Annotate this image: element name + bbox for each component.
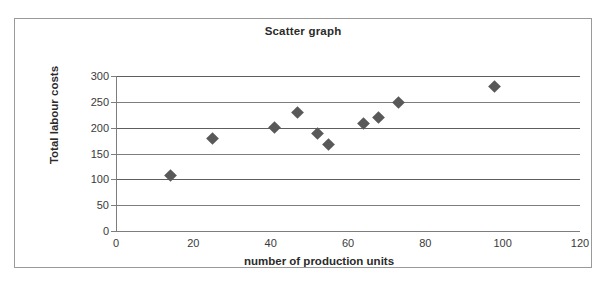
gridline-y-250	[116, 102, 580, 103]
gridline-y-0	[116, 231, 580, 232]
data-point	[322, 138, 335, 151]
y-tick-200	[111, 128, 117, 129]
x-tick-label-20: 20	[173, 237, 213, 249]
data-point	[291, 106, 304, 119]
x-tick-label-80: 80	[405, 237, 445, 249]
data-point	[268, 121, 281, 134]
x-tick-label-60: 60	[328, 237, 368, 249]
y-tick-150	[111, 154, 117, 155]
chart-figure-frame: Scatter graph Total labour costs number …	[14, 18, 592, 268]
x-tick-label-120: 120	[560, 237, 600, 249]
gridline-y-100	[116, 179, 580, 180]
y-tick-300	[111, 76, 117, 77]
y-tick-label-100: 100	[63, 173, 109, 185]
y-tick-label-0: 0	[63, 225, 109, 237]
y-tick-50	[111, 205, 117, 206]
gridline-y-150	[116, 154, 580, 155]
data-point	[392, 96, 405, 109]
x-tick-label-100: 100	[483, 237, 523, 249]
gridline-y-200	[116, 128, 580, 129]
data-point	[373, 111, 386, 124]
y-tick-100	[111, 179, 117, 180]
y-tick-label-200: 200	[63, 122, 109, 134]
x-tick-label-40: 40	[251, 237, 291, 249]
y-tick-label-300: 300	[63, 70, 109, 82]
y-tick-label-150: 150	[63, 148, 109, 160]
plot-area	[116, 76, 580, 231]
gridline-y-300	[116, 76, 580, 77]
y-tick-0	[111, 231, 117, 232]
data-point	[311, 127, 324, 140]
y-tick-250	[111, 102, 117, 103]
data-point	[206, 132, 219, 145]
chart-page: Scatter graph Total labour costs number …	[0, 0, 608, 287]
y-tick-label-250: 250	[63, 96, 109, 108]
y-tick-label-50: 50	[63, 199, 109, 211]
data-point	[489, 80, 502, 93]
gridline-y-50	[116, 205, 580, 206]
x-tick-label-0: 0	[96, 237, 136, 249]
